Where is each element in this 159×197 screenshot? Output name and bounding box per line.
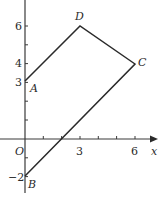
- diagram-canvas: 6 4 3 −2 3 6 O x A B C D: [0, 0, 159, 197]
- y-tick-label-4: 4: [15, 57, 22, 70]
- y-tick-label-neg2: −2: [8, 171, 24, 184]
- x-axis-label: x: [151, 145, 158, 158]
- x-tick-label-3: 3: [76, 145, 83, 158]
- point-label-D: D: [74, 10, 84, 23]
- x-axis-arrow-icon: [150, 136, 158, 143]
- y-tick-label-6: 6: [15, 20, 22, 33]
- point-label-B: B: [27, 178, 36, 191]
- point-label-C: C: [138, 56, 147, 69]
- x-tick-label-6: 6: [131, 145, 138, 158]
- coordinate-plane: 6 4 3 −2 3 6 O x A B C D: [0, 0, 159, 197]
- origin-label: O: [15, 145, 24, 158]
- point-label-A: A: [29, 82, 38, 95]
- y-tick-label-3: 3: [15, 76, 22, 89]
